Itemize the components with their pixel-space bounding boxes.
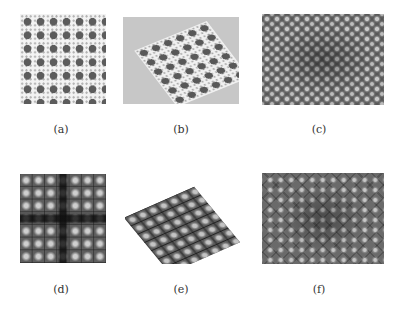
tilted-lattice-sheet: [134, 21, 239, 104]
panel-a-caption: (a): [31, 123, 91, 136]
panel-b-caption: (b): [151, 123, 211, 136]
panel-a-image: [20, 14, 106, 104]
panel-b-image: [123, 17, 239, 104]
panel-f-caption: (f): [289, 283, 349, 296]
panel-c-image: [262, 14, 384, 105]
panel-e-caption: (e): [151, 283, 211, 296]
tilted-lattice-sheet: [125, 187, 240, 264]
panel-c-caption: (c): [289, 123, 349, 136]
panel-d-image: [20, 174, 106, 263]
panel-e-image: [125, 173, 244, 264]
panel-d-caption: (d): [31, 283, 91, 296]
panel-f-image: [262, 173, 384, 264]
